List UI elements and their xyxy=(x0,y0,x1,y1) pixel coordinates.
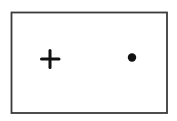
diagram-canvas xyxy=(0,0,177,121)
card-frame xyxy=(12,13,168,114)
dot-icon xyxy=(128,53,136,61)
plus-icon xyxy=(42,51,60,68)
